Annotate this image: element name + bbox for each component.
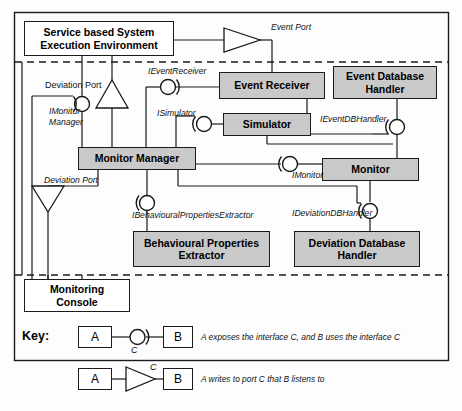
label-imonitormanager-line1: IMonitor bbox=[49, 106, 80, 116]
component-label-line2: Execution Environment bbox=[40, 39, 157, 51]
key-title: Key: bbox=[22, 329, 49, 343]
deviation-port-triangle-bottom bbox=[32, 186, 64, 212]
component-label: Monitor Manager bbox=[95, 152, 180, 165]
component-simulator[interactable]: Simulator bbox=[223, 113, 311, 136]
label-deviation-port-top: Deviation Port bbox=[45, 80, 102, 90]
key-row-interface-description: A exposes the interface C, and B uses th… bbox=[201, 332, 400, 342]
label-ideviationdbhandler: IDeviationDBHandler bbox=[292, 208, 372, 218]
component-label-line2: Handler bbox=[337, 249, 376, 261]
key-row-interface-box-b: B bbox=[163, 326, 193, 348]
component-monitor-manager[interactable]: Monitor Manager bbox=[78, 147, 196, 170]
label-deviation-port-bottom: Deviation Port bbox=[44, 175, 98, 185]
key-row-port-box-b: B bbox=[163, 368, 193, 390]
label-ieventdbhandler: IEventDBHandler bbox=[320, 114, 386, 124]
event-port-triangle bbox=[224, 28, 260, 52]
label-ieventreceiver: IEventReceiver bbox=[148, 66, 206, 76]
ibpe-ball bbox=[140, 196, 155, 211]
label-event-port: Event Port bbox=[271, 22, 311, 32]
diagram-vector-layer bbox=[0, 0, 462, 411]
isimulator-ball bbox=[197, 117, 212, 132]
component-service-based-system-execution-environment[interactable]: Service based System Execution Environme… bbox=[24, 21, 174, 56]
component-monitor[interactable]: Monitor bbox=[322, 158, 419, 181]
ieventdbhandler-ball bbox=[390, 120, 405, 135]
label-ibehaviouralpropertiesextractor: IBehaviouralPropertiesExtractor bbox=[132, 210, 253, 220]
key-row-port-connector-label: C bbox=[150, 362, 157, 372]
component-deviation-database-handler[interactable]: Deviation Database Handler bbox=[294, 231, 420, 267]
label-isimulator: ISimulator bbox=[157, 108, 196, 118]
component-label-line2: Handler bbox=[365, 83, 404, 95]
component-label-line1: Deviation Database bbox=[309, 237, 406, 249]
component-monitoring-console[interactable]: Monitoring Console bbox=[24, 279, 130, 312]
component-label: Event Receiver bbox=[234, 79, 309, 92]
key-row-interface-box-a: A bbox=[78, 326, 112, 348]
component-label: Simulator bbox=[243, 118, 291, 131]
ibpe-socket bbox=[136, 196, 139, 211]
component-label-line1: Monitoring bbox=[50, 283, 104, 295]
label-imonitor: IMonitor bbox=[292, 170, 323, 180]
diagram-canvas: Service based System Execution Environme… bbox=[0, 0, 462, 411]
component-label-line2: Extractor bbox=[178, 249, 224, 261]
component-label: Monitor bbox=[351, 163, 390, 176]
label-imonitormanager-line2: Manager bbox=[49, 117, 83, 127]
key-r1-ball bbox=[130, 330, 145, 345]
key-row-port-description: A writes to port C that B listens to bbox=[201, 374, 325, 384]
component-event-database-handler[interactable]: Event Database Handler bbox=[333, 66, 437, 99]
ieventreceiver-ball bbox=[161, 80, 176, 95]
component-label-line1: Behavioural Properties bbox=[144, 237, 259, 249]
key-row-interface-connector-label: C bbox=[131, 345, 138, 355]
key-row-port-box-a: A bbox=[78, 368, 112, 390]
component-label-line2: Console bbox=[56, 296, 97, 308]
isimulator-socket bbox=[193, 117, 196, 132]
component-label-line1: Service based System bbox=[44, 26, 155, 38]
component-label-line1: Event Database bbox=[346, 70, 424, 82]
component-event-receiver[interactable]: Event Receiver bbox=[219, 72, 325, 99]
component-behavioural-properties-extractor[interactable]: Behavioural Properties Extractor bbox=[133, 231, 270, 267]
